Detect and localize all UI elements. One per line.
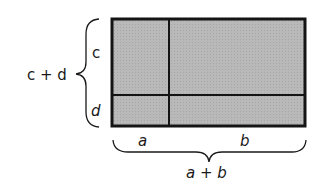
label-left-bottom: d [91, 102, 101, 120]
area-diagram: c + d c d a b a + b [0, 0, 317, 189]
label-left-total: c + d [27, 66, 67, 84]
region-ac [112, 19, 169, 95]
region-bc [169, 19, 305, 95]
label-bottom-a: a [138, 132, 147, 150]
region-bd [169, 95, 305, 126]
label-left-top: c [92, 44, 100, 62]
region-ad [112, 95, 169, 126]
label-bottom-total: a + b [186, 164, 227, 182]
label-bottom-b: b [240, 132, 250, 150]
rectangle-regions [112, 19, 305, 126]
